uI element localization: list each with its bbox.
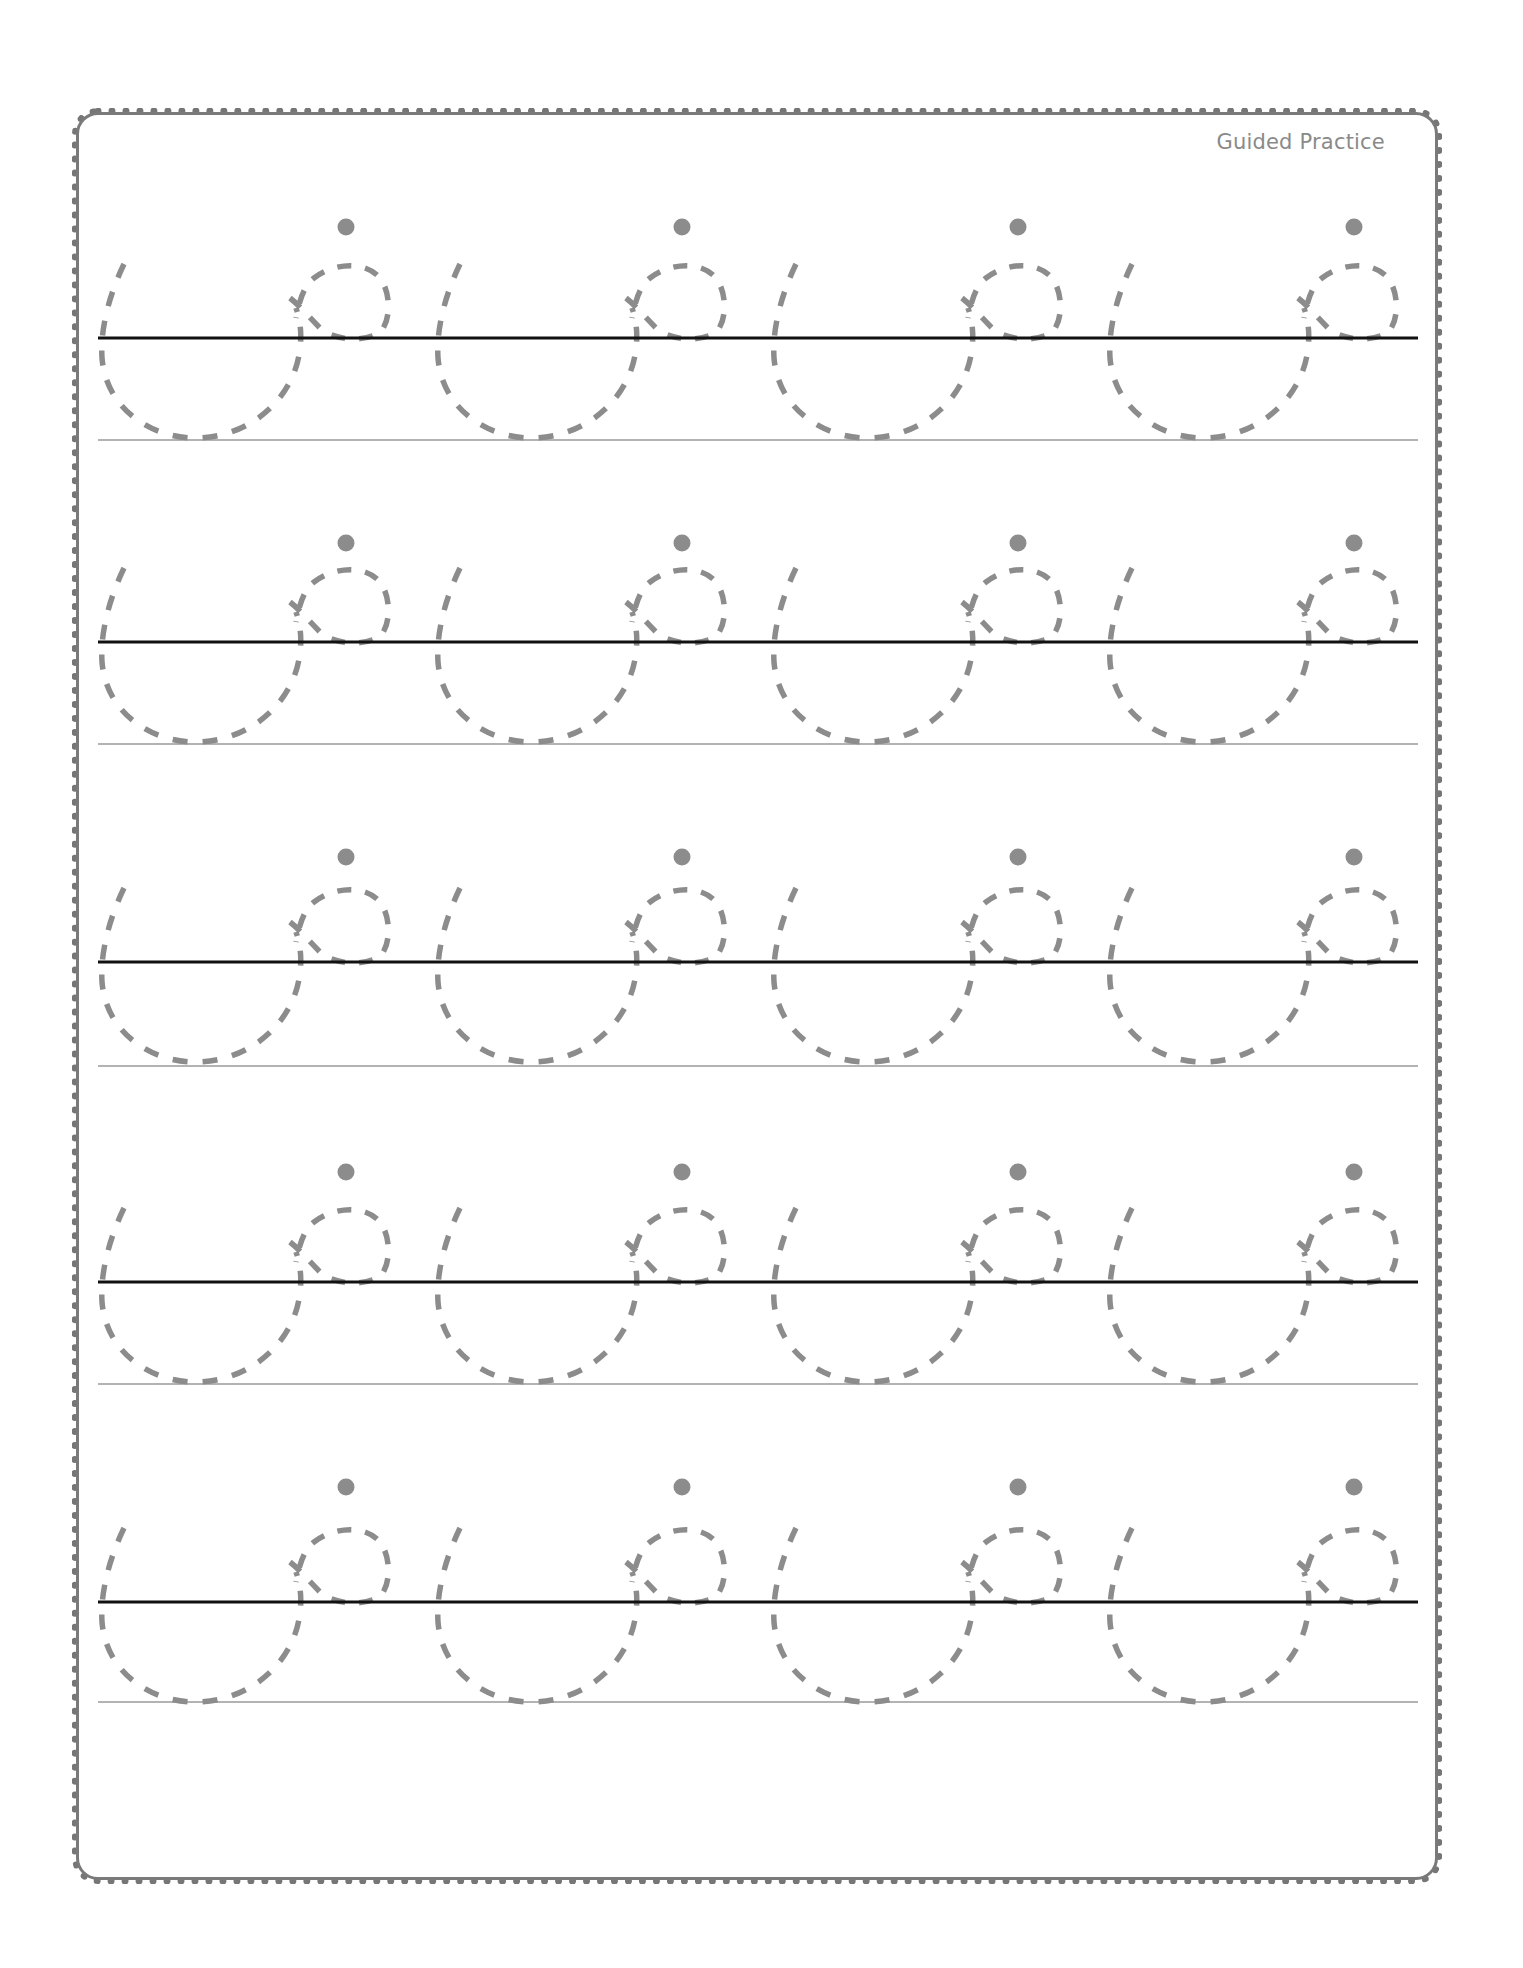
traceable-letter	[1110, 1164, 1397, 1383]
traceable-letter	[774, 849, 1061, 1063]
traceable-letter	[1110, 219, 1397, 439]
dashed-loop-stroke	[1298, 1530, 1396, 1603]
dashed-bowl-stroke	[774, 888, 973, 1062]
start-dot-icon	[1346, 535, 1363, 552]
traceable-letter	[774, 1479, 1061, 1703]
traceable-letter	[102, 849, 389, 1063]
dashed-bowl-stroke	[438, 568, 637, 742]
traceable-letter	[102, 219, 389, 439]
practice-row	[98, 1479, 1418, 1703]
traceable-letter	[438, 1479, 725, 1703]
dashed-loop-stroke	[962, 890, 1060, 963]
dashed-bowl-stroke	[438, 1208, 637, 1382]
dashed-loop-stroke	[962, 1210, 1060, 1283]
start-dot-icon	[1010, 1479, 1027, 1496]
traceable-letter	[1110, 1479, 1397, 1703]
start-dot-icon	[1010, 535, 1027, 552]
start-dot-icon	[674, 219, 691, 236]
practice-row	[98, 849, 1418, 1067]
dashed-loop-stroke	[962, 570, 1060, 643]
practice-row	[98, 219, 1418, 441]
dashed-loop-stroke	[626, 266, 724, 339]
dashed-bowl-stroke	[102, 1208, 301, 1382]
dashed-loop-stroke	[1298, 890, 1396, 963]
start-dot-icon	[1010, 219, 1027, 236]
traceable-letter	[774, 535, 1061, 743]
dashed-loop-stroke	[626, 1530, 724, 1603]
start-dot-icon	[338, 1479, 355, 1496]
start-dot-icon	[674, 1164, 691, 1181]
start-dot-icon	[674, 1479, 691, 1496]
dashed-bowl-stroke	[1110, 1208, 1309, 1382]
dashed-loop-stroke	[962, 1530, 1060, 1603]
dashed-loop-stroke	[290, 266, 388, 339]
start-dot-icon	[338, 535, 355, 552]
start-dot-icon	[1346, 1479, 1363, 1496]
dashed-bowl-stroke	[774, 1528, 973, 1702]
dashed-bowl-stroke	[1110, 568, 1309, 742]
dashed-bowl-stroke	[774, 264, 973, 438]
dashed-loop-stroke	[1298, 266, 1396, 339]
dashed-bowl-stroke	[102, 1528, 301, 1702]
start-dot-icon	[1346, 1164, 1363, 1181]
dashed-loop-stroke	[626, 890, 724, 963]
traceable-letter	[102, 1479, 389, 1703]
dashed-bowl-stroke	[774, 568, 973, 742]
start-dot-icon	[1010, 1164, 1027, 1181]
tracing-area	[0, 0, 1523, 1968]
dashed-loop-stroke	[290, 1530, 388, 1603]
practice-row	[98, 535, 1418, 745]
dashed-loop-stroke	[290, 570, 388, 643]
dashed-bowl-stroke	[1110, 888, 1309, 1062]
dashed-loop-stroke	[962, 266, 1060, 339]
start-dot-icon	[338, 219, 355, 236]
start-dot-icon	[674, 535, 691, 552]
dashed-bowl-stroke	[774, 1208, 973, 1382]
traceable-letter	[1110, 849, 1397, 1063]
traceable-letter	[438, 535, 725, 743]
dashed-loop-stroke	[1298, 1210, 1396, 1283]
dashed-loop-stroke	[290, 1210, 388, 1283]
dashed-bowl-stroke	[438, 264, 637, 438]
dashed-bowl-stroke	[1110, 264, 1309, 438]
dashed-loop-stroke	[626, 570, 724, 643]
traceable-letter	[774, 1164, 1061, 1383]
dashed-bowl-stroke	[438, 1528, 637, 1702]
start-dot-icon	[1346, 849, 1363, 866]
dashed-loop-stroke	[626, 1210, 724, 1283]
traceable-letter	[438, 1164, 725, 1383]
dashed-bowl-stroke	[102, 568, 301, 742]
dashed-bowl-stroke	[1110, 1528, 1309, 1702]
dashed-bowl-stroke	[102, 888, 301, 1062]
start-dot-icon	[1010, 849, 1027, 866]
traceable-letter	[102, 1164, 389, 1383]
traceable-letter	[438, 849, 725, 1063]
traceable-letter	[102, 535, 389, 743]
dashed-bowl-stroke	[102, 264, 301, 438]
dashed-bowl-stroke	[438, 888, 637, 1062]
start-dot-icon	[1346, 219, 1363, 236]
dashed-loop-stroke	[1298, 570, 1396, 643]
traceable-letter	[438, 219, 725, 439]
dashed-loop-stroke	[290, 890, 388, 963]
start-dot-icon	[338, 849, 355, 866]
start-dot-icon	[338, 1164, 355, 1181]
start-dot-icon	[674, 849, 691, 866]
traceable-letter	[774, 219, 1061, 439]
practice-row	[98, 1164, 1418, 1385]
traceable-letter	[1110, 535, 1397, 743]
